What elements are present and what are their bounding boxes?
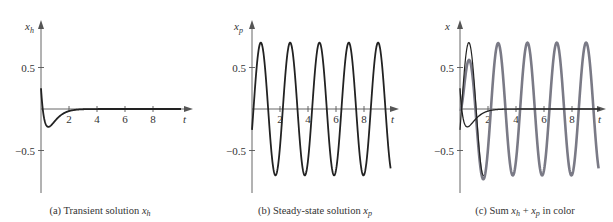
x-tick-label: 6 [541,113,547,125]
y-axis-label: xh [24,20,34,35]
panel-steady-state: 24680.5−0.5txp(b) Steady-state solution … [226,20,399,218]
sum-curve [460,43,599,180]
figure: 24680.5−0.5txh(a) Transient solution xh … [0,0,613,222]
caption-steady-state: (b) Steady-state solution xp [258,205,372,218]
x-tick-label: 2 [66,113,72,125]
x-axis-label: t [598,113,602,125]
y-axis-arrow-icon [38,20,44,29]
y-tick-label: −0.5 [15,145,35,157]
y-axis-label: xp [233,20,243,35]
panel-sum: 24680.5−0.5tx(c) Sum xh + xp in color [434,20,606,218]
x-tick-label: 8 [361,113,367,125]
y-tick-label: 0.5 [440,62,454,74]
x-tick-label: 8 [569,113,575,125]
x-tick-label: 6 [333,113,339,125]
y-tick-label: −0.5 [434,145,454,157]
y-axis-label: x [444,20,450,32]
y-axis-arrow-icon [249,20,255,29]
x-tick-label: 6 [122,113,128,125]
y-tick-label: −0.5 [226,145,246,157]
caption-sum: (c) Sum xh + xp in color [475,205,575,218]
y-tick-label: 0.5 [21,62,35,74]
panel-transient: 24680.5−0.5txh(a) Transient solution xh [15,20,193,218]
x-tick-label: 8 [150,113,156,125]
caption-transient: (a) Transient solution xh [49,205,150,218]
x-axis-arrow-icon [184,106,193,112]
transient-curve [41,88,181,127]
y-axis-arrow-icon [457,20,463,29]
x-axis-arrow-icon [390,106,399,112]
y-tick-label: 0.5 [232,62,246,74]
x-axis-label: t [391,113,395,125]
x-axis-label: t [183,113,187,125]
x-tick-label: 4 [94,113,100,125]
